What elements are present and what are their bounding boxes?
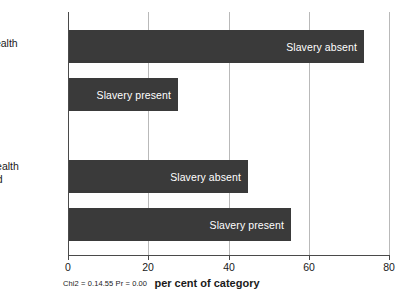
x-tick-label-40: 40 [223,261,235,273]
bar-no-bridewealth-slavery-present: Slavery present [68,78,178,111]
bar-label: Slavery absent [170,171,248,183]
y-axis-line [68,12,69,255]
bar-label: Slavery present [210,219,291,231]
gridline-80 [389,12,390,255]
bar-bridewealth-required-slavery-present: Slavery present [68,208,291,241]
plot-area: Slavery absent Slavery present Slavery a… [68,12,390,255]
bar-label: Slavery present [97,89,178,101]
category-label-line: No [0,24,64,37]
tick-mark-60 [309,255,310,260]
bar-label: Slavery absent [286,41,364,53]
tick-mark-20 [148,255,149,260]
bar-chart: Slavery absent Slavery present Slavery a… [0,0,414,300]
bar-no-bridewealth-slavery-absent: Slavery absent [68,30,364,63]
x-tick-label-80: 80 [383,261,395,273]
category-label-line: bridewealth [0,37,64,50]
x-tick-label-20: 20 [142,261,154,273]
x-tick-label-60: 60 [303,261,315,273]
tick-mark-80 [389,255,390,260]
tick-mark-0 [68,255,69,260]
x-axis-title: per cent of category [0,277,414,289]
category-label-line: required [0,173,64,186]
category-label-bridewealth-required: Bridewealth required [0,160,64,185]
bar-bridewealth-required-slavery-absent: Slavery absent [68,160,248,193]
x-tick-label-0: 0 [65,261,71,273]
category-label-no-bridewealth: No bridewealth [0,24,64,49]
tick-mark-40 [229,255,230,260]
category-label-line: Bridewealth [0,160,64,173]
